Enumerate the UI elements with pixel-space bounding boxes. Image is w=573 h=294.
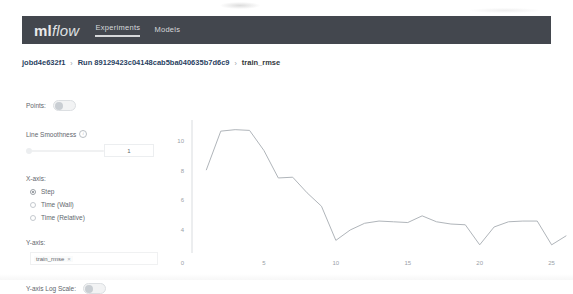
logo-text-ml: ml — [34, 22, 52, 39]
y-axis-block: Y-axis: train_rmse × — [26, 239, 176, 265]
line-smoothness-block: Line Smoothness i 1 — [26, 130, 176, 157]
line-smoothness-input[interactable]: 1 — [104, 144, 154, 157]
chart-svg: 468100 510152025 — [170, 112, 573, 272]
y-tick-label: 6 — [181, 197, 185, 203]
radio-label-time-relative: Time (Relative) — [41, 214, 85, 221]
y-axis-metric-tag-label: train_rmse — [36, 256, 64, 262]
log-scale-row: Y-axis Log Scale: — [26, 283, 176, 294]
nav-link-experiments[interactable]: Experiments — [95, 23, 140, 37]
x-axis-block: X-axis: Step Time (Wall) Time (Relative) — [26, 175, 176, 221]
log-scale-toggle-knob — [85, 285, 93, 293]
radio-step[interactable] — [30, 189, 36, 195]
x-tick-label: 5 — [262, 260, 266, 266]
nav-links: Experiments Models — [95, 16, 180, 44]
y-tick-labels: 468100 — [177, 138, 184, 266]
log-scale-label: Y-axis Log Scale: — [26, 285, 76, 292]
metric-line-chart[interactable]: 468100 510152025 — [170, 112, 573, 272]
y-axis-metric-select[interactable]: train_rmse × — [30, 252, 158, 265]
info-icon[interactable]: i — [79, 130, 87, 138]
x-tick-label: 20 — [476, 260, 483, 266]
line-smoothness-label: Line Smoothness — [26, 131, 76, 138]
points-toggle-row: Points: — [26, 100, 176, 111]
series-line-train-rmse — [206, 130, 566, 245]
points-toggle-knob — [55, 102, 63, 110]
points-toggle[interactable] — [53, 100, 76, 111]
x-axis-option-step[interactable]: Step — [30, 188, 176, 195]
x-axis-option-time-relative[interactable]: Time (Relative) — [30, 214, 176, 221]
y-tick-label: 10 — [177, 138, 184, 144]
line-smoothness-controls: 1 — [26, 144, 176, 157]
breadcrumb: jobd4e632f1 › Run 89129423c04148cab5ba04… — [22, 58, 280, 67]
points-label: Points: — [26, 102, 46, 109]
scan-artifact-top — [220, 2, 260, 9]
x-tick-labels: 510152025 — [262, 260, 555, 266]
chart-controls-panel: Points: Line Smoothness i 1 X-axis: Step… — [26, 100, 176, 294]
breadcrumb-experiment-link[interactable]: jobd4e632f1 — [22, 58, 65, 67]
y-tick-label: 8 — [181, 168, 185, 174]
breadcrumb-metric-name: train_rmse — [242, 58, 280, 67]
nav-link-models[interactable]: Models — [154, 25, 180, 35]
y-axis-metric-tag: train_rmse × — [34, 256, 73, 262]
line-smoothness-header: Line Smoothness i — [26, 130, 176, 138]
x-axis-label: X-axis: — [26, 175, 176, 182]
slider-track — [26, 150, 104, 152]
radio-time-wall[interactable] — [30, 202, 36, 208]
breadcrumb-run-link[interactable]: Run 89129423c04148cab5ba040635b7d6c9 — [78, 58, 230, 67]
x-tick-label: 10 — [333, 260, 340, 266]
x-axis-option-time-wall[interactable]: Time (Wall) — [30, 201, 176, 208]
radio-time-relative[interactable] — [30, 215, 36, 221]
slider-thumb[interactable] — [26, 148, 32, 154]
top-navigation-bar: mlflow Experiments Models — [22, 16, 551, 44]
log-scale-toggle[interactable] — [83, 283, 106, 294]
mlflow-logo[interactable]: mlflow — [34, 23, 79, 38]
remove-metric-icon[interactable]: × — [67, 256, 71, 262]
breadcrumb-separator-2: › — [234, 60, 236, 67]
logo-text-flow: flow — [52, 22, 79, 39]
line-smoothness-slider[interactable] — [26, 146, 104, 156]
y-tick-label: 4 — [181, 227, 185, 233]
breadcrumb-separator-1: › — [70, 60, 72, 67]
x-tick-label: 15 — [404, 260, 411, 266]
axis-origin-label: 0 — [181, 260, 185, 266]
radio-label-time-wall: Time (Wall) — [41, 201, 74, 208]
scan-artifact-top-right — [470, 8, 540, 13]
radio-label-step: Step — [41, 188, 54, 195]
x-tick-label: 25 — [548, 260, 555, 266]
y-axis-label: Y-axis: — [26, 239, 176, 246]
